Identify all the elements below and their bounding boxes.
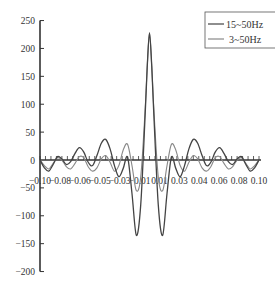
legend-label-15-50hz: 15~50Hz (226, 19, 264, 30)
chart-canvas: 250200150100500−50−100−150−200 −0.10−0.0… (0, 0, 275, 293)
x-tick-label: −0.06 (69, 176, 91, 186)
x-tick-label: −0.08 (49, 176, 71, 186)
x-tick-label: 0.03 (171, 176, 188, 186)
y-tick-label: 0 (30, 156, 35, 166)
y-tick-label: −150 (15, 239, 35, 249)
x-tick-label: −0.05 (89, 176, 111, 186)
y-tick-label: −200 (15, 267, 35, 277)
x-axis: −0.10−0.08−0.06−0.05−0.03−0.010.010.030.… (29, 156, 268, 186)
series-line-3-50hz (40, 33, 259, 191)
x-tick-label: 0.04 (191, 176, 208, 186)
x-tick-label: −0.10 (29, 176, 51, 186)
series-layer (40, 33, 259, 236)
y-axis: 250200150100500−50−100−150−200 (15, 16, 44, 277)
x-tick-label: 0.10 (251, 176, 268, 186)
x-tick-label: 0.08 (231, 176, 248, 186)
chart: 250200150100500−50−100−150−200 −0.10−0.0… (0, 0, 275, 293)
y-tick-label: 150 (21, 72, 36, 82)
y-tick-label: 100 (21, 100, 36, 110)
y-tick-label: −100 (15, 211, 35, 221)
x-tick-label: −0.03 (109, 176, 131, 186)
y-tick-label: 250 (21, 16, 36, 26)
legend-label-3-50hz: 3~50Hz (229, 34, 262, 45)
x-tick-label: 0.06 (211, 176, 228, 186)
series-line-15-50hz (40, 33, 259, 236)
y-tick-label: 50 (26, 128, 36, 138)
y-tick-label: 200 (21, 44, 36, 54)
legend: 15~50Hz 3~50Hz (205, 12, 275, 48)
